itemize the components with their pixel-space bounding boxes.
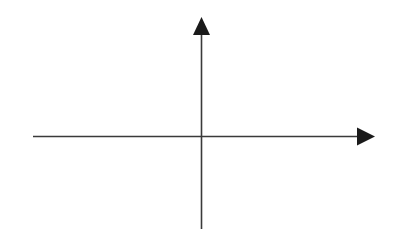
x-axis-arrowhead-icon bbox=[357, 128, 375, 146]
coordinate-axes-diagram bbox=[0, 0, 396, 231]
x-axis bbox=[33, 128, 375, 146]
y-axis bbox=[193, 17, 210, 229]
y-axis-arrowhead-icon bbox=[193, 17, 210, 35]
